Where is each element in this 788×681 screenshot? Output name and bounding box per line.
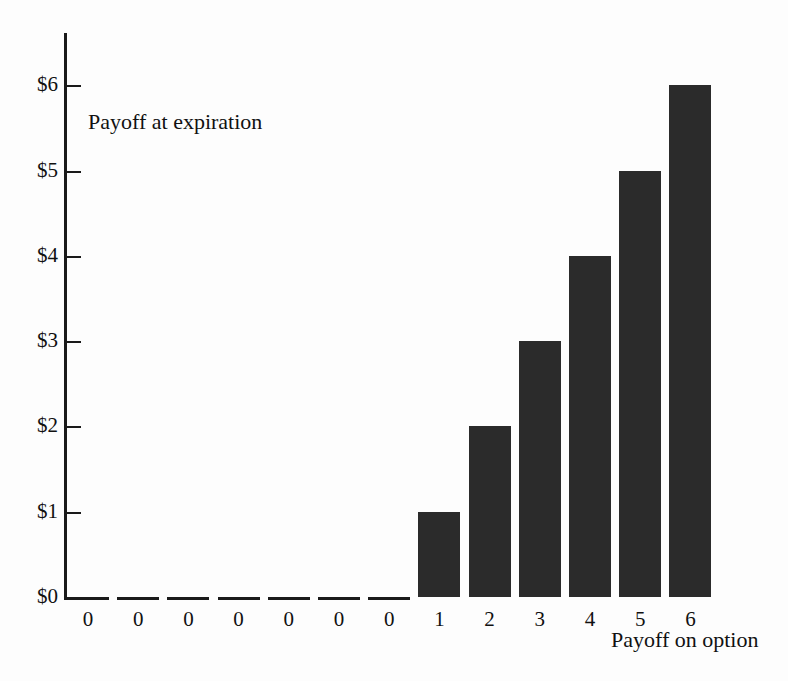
x-axis-tick-label: 0: [67, 609, 109, 630]
bar: [418, 512, 460, 597]
y-axis-tick: [67, 426, 81, 428]
y-axis-tick: [67, 341, 81, 343]
bar-zero: [318, 597, 360, 600]
y-axis-tick-label: $3: [0, 330, 58, 351]
x-axis-tick-label: 2: [469, 609, 511, 630]
bar-zero: [368, 597, 410, 600]
y-axis-tick: [67, 85, 81, 87]
x-axis-tick-label: 3: [519, 609, 561, 630]
y-axis-tick-label: $0: [0, 586, 58, 607]
bar: [519, 341, 561, 597]
y-axis-tick: [67, 171, 81, 173]
bar-zero: [218, 597, 260, 600]
bar: [469, 426, 511, 597]
x-axis-tick-label: 0: [368, 609, 410, 630]
x-axis-tick-label: 1: [418, 609, 460, 630]
x-axis-tick-label: 0: [318, 609, 360, 630]
y-axis-tick-label: $5: [0, 160, 58, 181]
y-axis-tick-label: $1: [0, 501, 58, 522]
x-axis-tick-label: 0: [218, 609, 260, 630]
x-axis-tick-label: 0: [167, 609, 209, 630]
y-axis-tick-label: $6: [0, 74, 58, 95]
y-axis-tick: [67, 512, 81, 514]
x-axis-tick-label: 4: [569, 609, 611, 630]
bar: [569, 256, 611, 597]
bar-zero: [268, 597, 310, 600]
payoff-on-option-label: Payoff on option: [611, 628, 758, 652]
x-axis-tick-label: 0: [268, 609, 310, 630]
y-axis-tick-label: $4: [0, 245, 58, 266]
bar-zero: [117, 597, 159, 600]
bar-chart-figure: $0$1$2$3$4$5$6 0000000123456 Payoff at e…: [0, 0, 788, 681]
bar: [619, 171, 661, 598]
y-axis-tick-label: $2: [0, 415, 58, 436]
x-axis-tick-label: 0: [117, 609, 159, 630]
bar-zero: [167, 597, 209, 600]
bar-zero: [67, 597, 109, 600]
y-axis-line: [64, 33, 67, 600]
payoff-at-expiration-label: Payoff at expiration: [88, 110, 262, 134]
y-axis-tick: [67, 256, 81, 258]
bar: [669, 85, 711, 597]
